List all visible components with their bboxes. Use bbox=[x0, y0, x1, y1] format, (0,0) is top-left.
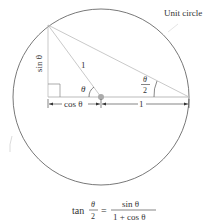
radius-line bbox=[48, 25, 101, 97]
formula-lhs-denominator: 2 bbox=[91, 212, 95, 220]
stray-mark bbox=[10, 136, 12, 152]
cos-theta-label: cos θ bbox=[64, 99, 83, 109]
theta-label: θ bbox=[81, 84, 86, 94]
sin-theta-label: sin θ bbox=[34, 55, 44, 72]
radius-label: 1 bbox=[81, 60, 86, 70]
formula-lhs-numerator: θ bbox=[91, 200, 95, 209]
formula-equals: = bbox=[101, 205, 107, 216]
theta-arc bbox=[89, 87, 94, 97]
unit-circle-label: Unit circle bbox=[164, 8, 202, 18]
formula-rhs-denominator: 1 + cos θ bbox=[113, 212, 146, 220]
half-theta-denominator: 2 bbox=[143, 86, 147, 95]
unit-circle-diagram: Unit circle sin θ 1 θ θ 2 cos θ 1 tan θ … bbox=[0, 0, 210, 220]
cos-arrow-right bbox=[96, 103, 100, 106]
chord-line bbox=[48, 25, 189, 97]
right-angle-marker bbox=[48, 84, 60, 97]
formula-tan: tan bbox=[72, 205, 84, 216]
one-arrow-right bbox=[184, 103, 188, 106]
one-base-label: 1 bbox=[139, 99, 144, 109]
callout-leader bbox=[168, 24, 178, 32]
half-theta-arc bbox=[154, 81, 157, 97]
formula-rhs-numerator: sin θ bbox=[122, 199, 139, 209]
half-theta-numerator: θ bbox=[143, 75, 147, 84]
cos-arrow-left bbox=[49, 103, 53, 106]
one-arrow-left bbox=[102, 103, 106, 106]
